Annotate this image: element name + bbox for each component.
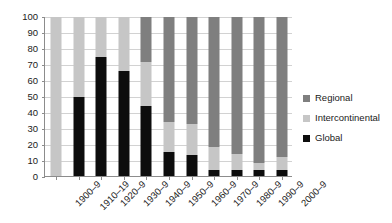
- stacked-bar[interactable]: [276, 17, 287, 176]
- legend-swatch-icon: [303, 115, 310, 122]
- bar-segment-intercontinental: [51, 17, 62, 176]
- bar-segment-global: [141, 106, 152, 176]
- y-axis-tick-label: 30: [0, 124, 38, 134]
- bar-segment-intercontinental: [231, 154, 242, 170]
- bar-segment-regional: [254, 17, 265, 163]
- bar-segment-intercontinental: [118, 17, 129, 71]
- bar-segment-regional: [186, 17, 197, 124]
- y-axis-tick-label: 60: [0, 76, 38, 86]
- bar-group: [270, 17, 293, 176]
- bar-segment-intercontinental: [186, 124, 197, 156]
- y-axis-tick-label: 90: [0, 28, 38, 38]
- bar-segment-global: [96, 57, 107, 176]
- bar-segment-intercontinental: [141, 62, 152, 107]
- chart-figure: 0102030405060708090100 1900–91910–191920…: [0, 0, 392, 223]
- y-axis-tick-mark: [42, 177, 45, 178]
- stacked-bar[interactable]: [96, 17, 107, 176]
- bar-segment-regional: [231, 17, 242, 154]
- bar-group: [113, 17, 136, 176]
- bar-segment-intercontinental: [276, 157, 287, 170]
- y-axis-tick-label: 20: [0, 140, 38, 150]
- bar-segment-regional: [276, 17, 287, 157]
- bar-group: [68, 17, 91, 176]
- bar-segment-regional: [163, 17, 174, 122]
- bar-group: [203, 17, 226, 176]
- bar-segment-intercontinental: [73, 17, 84, 97]
- stacked-bar[interactable]: [118, 17, 129, 176]
- y-axis-tick-label: 0: [0, 172, 38, 182]
- bar-group: [248, 17, 271, 176]
- stacked-bar[interactable]: [141, 17, 152, 176]
- y-axis-tick-label: 80: [0, 44, 38, 54]
- stacked-bar[interactable]: [163, 17, 174, 176]
- bar-segment-global: [186, 155, 197, 176]
- bar-group: [135, 17, 158, 176]
- legend-item[interactable]: Global: [303, 128, 391, 148]
- bar-group: [225, 17, 248, 176]
- y-axis-tick-label: 70: [0, 60, 38, 70]
- bar-group: [90, 17, 113, 176]
- y-axis-tick-label: 50: [0, 92, 38, 102]
- stacked-bar[interactable]: [254, 17, 265, 176]
- bar-segment-global: [118, 71, 129, 176]
- y-axis-tick-label: 10: [0, 156, 38, 166]
- bar-segment-intercontinental: [209, 147, 220, 169]
- stacked-bar[interactable]: [209, 17, 220, 176]
- bar-segment-regional: [141, 17, 152, 62]
- y-axis-tick-label: 100: [0, 12, 38, 22]
- chart-legend: RegionalIntercontinentalGlobal: [303, 88, 391, 148]
- legend-label: Regional: [315, 93, 353, 103]
- legend-item[interactable]: Regional: [303, 88, 391, 108]
- bar-segment-regional: [209, 17, 220, 147]
- bar-group: [158, 17, 181, 176]
- stacked-bar[interactable]: [186, 17, 197, 176]
- legend-label: Intercontinental: [315, 113, 380, 123]
- y-axis-tick-labels: 0102030405060708090100: [0, 17, 38, 177]
- legend-swatch-icon: [303, 135, 310, 142]
- bar-segment-global: [163, 152, 174, 176]
- bar-segment-intercontinental: [163, 122, 174, 152]
- bar-segment-global: [73, 97, 84, 177]
- x-axis-tick-labels: 1900–91910–191920–91930–91940–91950–9196…: [44, 179, 292, 223]
- plot-area: [44, 17, 292, 177]
- bar-group: [45, 17, 68, 176]
- y-axis-tick-label: 40: [0, 108, 38, 118]
- stacked-bar[interactable]: [51, 17, 62, 176]
- bar-segment-intercontinental: [96, 17, 107, 57]
- stacked-bar[interactable]: [73, 17, 84, 176]
- legend-swatch-icon: [303, 95, 310, 102]
- legend-label: Global: [315, 133, 342, 143]
- bar-group: [180, 17, 203, 176]
- legend-item[interactable]: Intercontinental: [303, 108, 391, 128]
- stacked-bar[interactable]: [231, 17, 242, 176]
